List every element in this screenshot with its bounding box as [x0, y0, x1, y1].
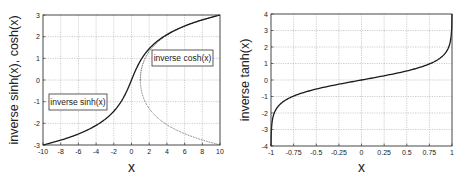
figure: -10-8-6-4-20246810 -3-2-10123 x inverse …	[0, 0, 471, 180]
left-y-axis-label: inverse sinh(x), cosh(x)	[7, 15, 21, 144]
left-chart: -10-8-6-4-20246810 -3-2-10123 x inverse …	[7, 12, 224, 176]
annotation-text-cosh: inverse cosh(x)	[154, 53, 212, 63]
x-tick-label: -6	[75, 148, 81, 155]
x-tick-label: 0.25	[377, 149, 391, 156]
x-tick-label: 4	[165, 148, 169, 155]
x-tick-label: -4	[93, 148, 99, 155]
y-tick-label: -1	[262, 93, 268, 100]
left-y-tick-labels: -3-2-10123	[34, 12, 40, 149]
left-x-tick-labels: -10-8-6-4-20246810	[38, 148, 224, 155]
right-x-axis-label: x	[358, 159, 365, 175]
x-tick-label: -0.75	[286, 149, 302, 156]
x-tick-label: 0	[130, 148, 134, 155]
x-tick-label: 0	[360, 149, 364, 156]
x-tick-label: -0.5	[310, 149, 322, 156]
y-tick-label: 1	[264, 60, 268, 67]
y-tick-label: 2	[264, 44, 268, 51]
y-tick-label: -4	[262, 143, 268, 150]
figure-canvas: -10-8-6-4-20246810 -3-2-10123 x inverse …	[0, 0, 471, 180]
x-tick-label: -1	[268, 149, 274, 156]
y-tick-label: 1	[36, 55, 40, 62]
x-tick-label: 6	[183, 148, 187, 155]
y-tick-label: 0	[264, 77, 268, 84]
y-tick-label: -2	[262, 110, 268, 117]
y-tick-label: 0	[36, 77, 40, 84]
annotation-inverse-cosh: inverse cosh(x)	[152, 50, 213, 66]
y-tick-label: 4	[264, 11, 268, 18]
inverse-cosh-curve-lower	[140, 80, 220, 145]
y-tick-label: 2	[36, 33, 40, 40]
left-x-axis-label: x	[128, 159, 135, 175]
x-tick-label: 2	[147, 148, 151, 155]
y-tick-label: 3	[36, 12, 40, 19]
x-tick-label: 8	[200, 148, 204, 155]
y-tick-label: -2	[34, 120, 40, 127]
right-chart: -1-0.75-0.5-0.2500.250.50.751 -4-3-2-101…	[238, 11, 454, 176]
annotation-text-sinh: inverse sinh(x)	[50, 97, 105, 107]
right-y-tick-labels: -4-3-2-101234	[262, 11, 268, 150]
x-tick-label: -10	[38, 148, 48, 155]
x-tick-label: -0.25	[331, 149, 347, 156]
x-tick-label: -8	[58, 148, 64, 155]
x-tick-label: 1	[450, 149, 454, 156]
y-tick-label: -3	[262, 126, 268, 133]
y-tick-label: -3	[34, 142, 40, 149]
x-tick-label: 0.75	[423, 149, 437, 156]
y-tick-label: 3	[264, 27, 268, 34]
right-y-axis-label: inverse tanh(x)	[238, 39, 252, 122]
right-x-tick-labels: -1-0.75-0.5-0.2500.250.50.751	[268, 149, 454, 156]
inverse-cosh-curve-upper	[140, 15, 220, 80]
x-tick-label: 10	[216, 148, 224, 155]
x-tick-label: 0.5	[402, 149, 412, 156]
y-tick-label: -1	[34, 98, 40, 105]
annotation-inverse-sinh: inverse sinh(x)	[49, 94, 107, 110]
x-tick-label: -2	[111, 148, 117, 155]
